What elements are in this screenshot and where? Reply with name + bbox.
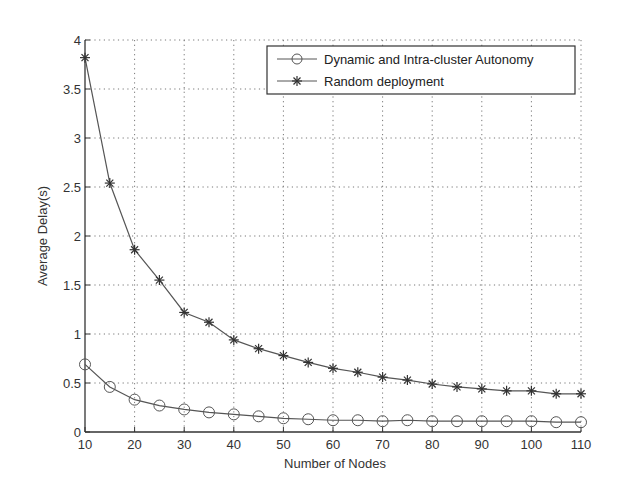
legend: Dynamic and Intra-cluster Autonomy Rando… [267,46,575,94]
x-tick-label: 110 [571,437,592,452]
x-tick-label: 50 [276,437,290,452]
data-series [80,53,587,428]
x-tick-label: 100 [521,437,543,452]
y-tick-label: 1.5 [63,278,81,293]
x-tick-label: 60 [326,437,340,452]
y-axis-label: Average Delay(s) [35,186,50,286]
y-tick-label: 2.5 [63,180,81,195]
x-tick-label: 30 [177,437,191,452]
legend-label-dynamic: Dynamic and Intra-cluster Autonomy [324,52,534,67]
y-tick-label: 4 [74,33,81,48]
y-tick-label: 3.5 [63,82,81,97]
x-axis-label: Number of Nodes [284,456,386,471]
y-axis-ticks: 00.511.522.533.54 [63,33,90,440]
star-marker-icon [292,76,302,86]
y-tick-label: 3 [74,131,81,146]
legend-label-random: Random deployment [324,74,444,89]
line-chart: 00.511.522.533.54 1020304050607080901001… [0,0,621,495]
y-tick-label: 0.5 [63,376,81,391]
x-tick-label: 10 [78,437,92,452]
x-tick-label: 20 [127,437,141,452]
x-tick-label: 70 [375,437,389,452]
series-random [80,53,586,399]
x-axis-ticks: 102030405060708090100110 [78,427,592,452]
y-tick-label: 1 [74,327,81,342]
y-tick-label: 2 [74,229,81,244]
x-tick-label: 80 [425,437,439,452]
x-tick-label: 40 [227,437,241,452]
x-tick-label: 90 [475,437,489,452]
